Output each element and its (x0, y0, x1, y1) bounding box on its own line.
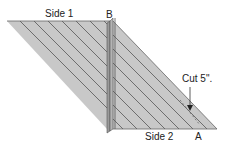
label-side-1: Side 1 (45, 9, 73, 19)
label-cut: Cut 5". (182, 74, 212, 84)
label-point-a: A (195, 132, 202, 142)
label-point-b: B (106, 10, 113, 20)
label-side-2: Side 2 (145, 132, 173, 142)
